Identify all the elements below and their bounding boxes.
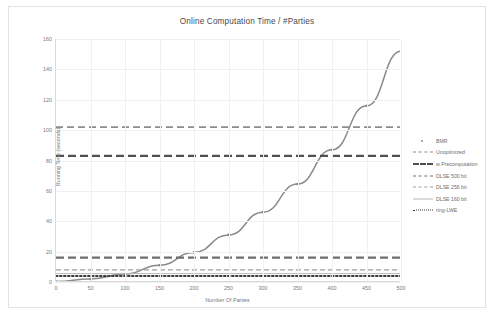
- x-axis-tick-label: 300: [259, 285, 268, 291]
- x-axis-tick-label: 450: [362, 285, 371, 291]
- legend-item[interactable]: Unoptimized: [413, 147, 487, 159]
- data-point: [56, 280, 57, 281]
- y-axis-tick-label: 80: [46, 158, 52, 164]
- x-axis-tick-label: 400: [328, 285, 337, 291]
- x-axis-tick-label: 350: [293, 285, 302, 291]
- legend-key-dashdot-icon: [413, 183, 433, 192]
- y-axis-tick-label: 60: [46, 188, 52, 194]
- legend-item[interactable]: ring-LWE: [413, 205, 487, 217]
- chart-container: Online Computation Time / #Parties 02040…: [8, 6, 486, 308]
- gridline-vertical: [298, 39, 299, 281]
- y-axis-title: Running Time (seconds): [55, 128, 61, 186]
- legend-item[interactable]: w Precomputation: [413, 158, 487, 170]
- gridline-vertical: [125, 39, 126, 281]
- gridline-vertical: [91, 39, 92, 281]
- legend-key-dash-thick-icon: [413, 159, 433, 168]
- legend-item-label: Unoptimized: [436, 149, 465, 155]
- y-axis-tick-label: 0: [49, 279, 52, 285]
- x-axis-title: Number Of Parties: [55, 297, 400, 303]
- legend-item-label: DLSE 500 bit: [436, 173, 467, 179]
- x-axis-tick-label: 100: [121, 285, 130, 291]
- gridline-vertical: [401, 39, 402, 281]
- legend-item-label: ring-LWE: [436, 207, 457, 213]
- legend-item-label: DLSE 160 bit: [436, 196, 467, 202]
- legend-item-label: BMR: [436, 138, 448, 144]
- y-axis-tick-label: 20: [46, 249, 52, 255]
- y-axis-tick-label: 160: [43, 36, 52, 42]
- gridline-horizontal: [56, 282, 400, 283]
- gridline-vertical: [160, 39, 161, 281]
- legend-item[interactable]: DLSE 500 bit: [413, 170, 487, 182]
- y-axis-tick-label: 100: [43, 127, 52, 133]
- legend-key-marker-icon: [413, 136, 433, 145]
- gridline-vertical: [194, 39, 195, 281]
- gridline-vertical: [229, 39, 230, 281]
- legend-key-dotted-icon: [413, 206, 433, 215]
- plot-area: 0204060801001201401600501001502002503003…: [55, 39, 400, 282]
- gridline-vertical: [367, 39, 368, 281]
- y-axis-tick-label: 40: [46, 218, 52, 224]
- x-axis-tick-label: 50: [88, 285, 94, 291]
- legend-key-dash-thick2-icon: [413, 171, 433, 180]
- legend-key-dash-med-icon: [413, 148, 433, 157]
- legend-item[interactable]: DLSE 256 bit: [413, 181, 487, 193]
- x-axis-tick-label: 150: [155, 285, 164, 291]
- y-axis-tick-label: 140: [43, 66, 52, 72]
- gridline-vertical: [332, 39, 333, 281]
- legend-key-solid-thin-icon: [413, 194, 433, 203]
- legend-item[interactable]: DLSE 160 bit: [413, 193, 487, 205]
- x-axis-tick-label: 250: [224, 285, 233, 291]
- y-axis-tick-label: 120: [43, 97, 52, 103]
- legend-item-label: DLSE 256 bit: [436, 184, 467, 190]
- chart-legend: BMRUnoptimizedw PrecomputationDLSE 500 b…: [413, 135, 487, 216]
- chart-title: Online Computation Time / #Parties: [9, 17, 485, 26]
- x-axis-tick-label: 500: [397, 285, 406, 291]
- x-axis-tick-label: 200: [190, 285, 199, 291]
- legend-item[interactable]: BMR: [413, 135, 487, 147]
- gridline-vertical: [263, 39, 264, 281]
- x-axis-tick-label: 0: [55, 285, 58, 291]
- legend-item-label: w Precomputation: [436, 161, 478, 167]
